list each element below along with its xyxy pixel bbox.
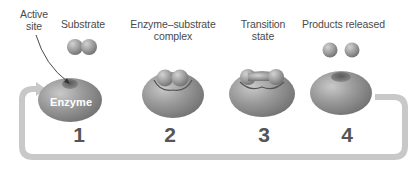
active-site-pointer — [36, 35, 68, 82]
step-4-graphic — [310, 43, 372, 116]
enzyme-label: Enzyme — [50, 96, 92, 108]
active-site-label: Active site — [8, 8, 60, 32]
products-label: Products released — [302, 18, 382, 30]
complex-label-line2: complex — [128, 30, 218, 42]
transition-label-line2: state — [236, 30, 290, 42]
enzyme-cycle-diagram: Active site Substrate Enzyme–substrate c… — [0, 0, 414, 170]
complex-label-line1: Enzyme–substrate — [128, 18, 218, 30]
step-number-2: 2 — [155, 124, 185, 146]
transition-label: Transition state — [236, 18, 290, 42]
active-site-pocket — [331, 72, 351, 82]
step-3-graphic — [229, 69, 295, 117]
substrate-label: Substrate — [58, 18, 108, 30]
step-number-4: 4 — [332, 124, 362, 146]
complex-label: Enzyme–substrate complex — [128, 18, 218, 42]
active-site-label-line2: site — [8, 20, 60, 32]
product-molecule — [345, 43, 360, 58]
step-number-3: 3 — [249, 124, 279, 146]
product-molecule — [323, 43, 338, 58]
step-2-graphic — [142, 70, 204, 119]
step-number-1: 1 — [64, 124, 94, 146]
active-site-label-line1: Active — [8, 8, 60, 20]
step-1-graphic — [36, 35, 102, 122]
substrate-molecule — [67, 39, 97, 55]
transition-label-line1: Transition — [236, 18, 290, 30]
